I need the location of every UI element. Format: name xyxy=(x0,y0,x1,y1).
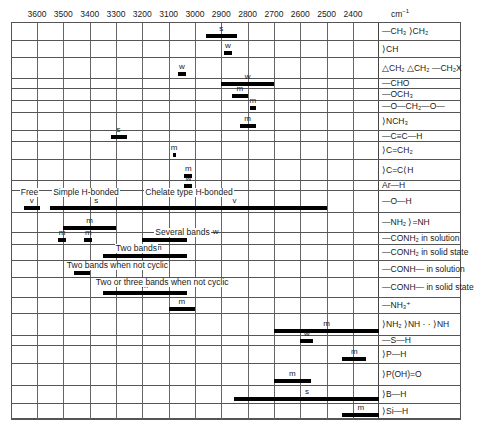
grid-hline xyxy=(11,22,461,23)
row-label: ⟩Si—H xyxy=(382,406,408,416)
band-note: Simple H-bonded xyxy=(52,188,120,197)
row-label: —CH₃ ⟩CH₂ xyxy=(382,26,428,36)
x-tick-label: 3500 xyxy=(54,9,73,19)
absorption-band-bar xyxy=(142,206,326,210)
intensity-label: m xyxy=(289,370,296,378)
row-label: —OCH₃ xyxy=(382,89,413,99)
x-tick-label: 3100 xyxy=(159,9,178,19)
intensity-label: w xyxy=(186,175,192,183)
absorption-band-bar xyxy=(232,94,248,98)
intensity-label: s xyxy=(94,197,98,205)
absorption-band-bar xyxy=(300,339,313,343)
row-label: —C≡C—H xyxy=(382,131,422,141)
intensity-label: w xyxy=(213,228,219,236)
grid-vline xyxy=(116,22,117,419)
row-label: —NH₂ ⟩=NH xyxy=(382,217,430,227)
row-label: ⟩NH₂ ⟩NH · · ⟩NH xyxy=(382,319,449,329)
x-tick-label: 3200 xyxy=(133,9,152,19)
band-note: Two bands xyxy=(115,244,158,253)
label-column-separator xyxy=(378,22,379,419)
x-tick-label: 2700 xyxy=(265,9,284,19)
unit-base: cm xyxy=(391,9,402,19)
row-label: ⟩P—H xyxy=(382,349,406,359)
row-label: —NH₃⁺ xyxy=(382,300,411,310)
x-tick-label: 3300 xyxy=(107,9,126,19)
grid-vline xyxy=(63,22,64,419)
grid-vline xyxy=(169,22,170,419)
ir-correlation-chart: 3600350034003300320031003000290028002700… xyxy=(0,0,484,434)
intensity-label: m xyxy=(85,229,92,237)
intensity-label: s xyxy=(219,25,223,33)
absorption-band-bar xyxy=(178,72,186,76)
intensity-label: m xyxy=(236,85,243,93)
absorption-band-bar xyxy=(274,329,379,333)
row-label: —CONH— in solution xyxy=(382,264,465,274)
x-tick-label: 2800 xyxy=(238,9,257,19)
grid-hline xyxy=(11,313,461,314)
absorption-band-bar xyxy=(221,82,274,86)
row-label: —O—H xyxy=(382,196,412,206)
row-label: ⟩CH xyxy=(382,44,398,54)
grid-hline xyxy=(11,57,461,58)
intensity-label: w xyxy=(304,330,310,338)
grid-hline xyxy=(11,297,461,298)
band-note: Chelate type H-bonded xyxy=(144,188,233,197)
row-label: △CH₂ △CH₂ —CH₂X xyxy=(382,63,462,73)
row-label: —S—H xyxy=(382,335,411,345)
absorption-band-bar xyxy=(50,206,142,210)
band-note: Two or three bands when not cyclic xyxy=(95,278,230,287)
intensity-label: w xyxy=(225,42,231,50)
intensity-label: m xyxy=(244,115,251,123)
absorption-band-bar xyxy=(342,357,366,361)
x-tick-label: 2600 xyxy=(291,9,310,19)
intensity-label: m xyxy=(358,404,365,412)
intensity-label: m xyxy=(178,298,185,306)
band-note: Several bands xyxy=(154,228,210,237)
row-label: ⟩B—H xyxy=(382,389,406,399)
grid-hline xyxy=(11,419,461,420)
grid-vline xyxy=(327,22,328,419)
row-label: ⟩C=C⟨H xyxy=(382,165,413,175)
intensity-label: v xyxy=(232,197,236,205)
grid-hline xyxy=(11,112,461,113)
row-label: —CHO xyxy=(382,78,409,88)
absorption-band-bar xyxy=(234,397,379,401)
intensity-label: w xyxy=(245,73,251,81)
grid-hline xyxy=(11,212,461,213)
grid-hline xyxy=(11,403,461,404)
x-tick-label: 3400 xyxy=(80,9,99,19)
grid-hline xyxy=(11,159,461,160)
grid-hline xyxy=(11,345,461,346)
intensity-label: m xyxy=(351,348,358,356)
row-label: Ar—H xyxy=(382,180,405,190)
x-tick-label: 2900 xyxy=(212,9,231,19)
absorption-band-bar xyxy=(24,206,40,210)
row-label: ⟩C=CH₂ xyxy=(382,145,413,155)
row-label: —CONH₂ in solid state xyxy=(382,247,468,257)
band-note: Two bands when not cyclic xyxy=(66,261,169,270)
grid-hline xyxy=(11,40,461,41)
grid-hline xyxy=(11,244,461,245)
row-label: —CONH— in solid state xyxy=(382,282,474,292)
intensity-label: s xyxy=(305,388,309,396)
intensity-label: w xyxy=(179,63,185,71)
absorption-band-bar xyxy=(206,34,238,38)
grid-hline xyxy=(11,277,461,278)
absorption-band-bar xyxy=(58,238,66,242)
x-tick-label: 2500 xyxy=(317,9,336,19)
grid-hline xyxy=(11,385,461,386)
absorption-band-bar xyxy=(111,135,127,139)
row-label: —O—CH₂—O— xyxy=(382,101,445,111)
unit-exponent: −1 xyxy=(402,8,409,14)
row-label: ⟩NCH₃ xyxy=(382,116,408,126)
absorption-band-bar xyxy=(84,238,92,242)
intensity-label: v xyxy=(30,197,34,205)
grid-vline xyxy=(37,22,38,419)
absorption-band-bar xyxy=(103,254,187,258)
x-tick-label: 3000 xyxy=(186,9,205,19)
absorption-band-bar xyxy=(103,291,187,295)
intensity-label: m xyxy=(86,217,93,225)
intensity-label: m xyxy=(323,320,330,328)
absorption-band-bar xyxy=(224,51,232,55)
absorption-band-bar xyxy=(240,124,256,128)
